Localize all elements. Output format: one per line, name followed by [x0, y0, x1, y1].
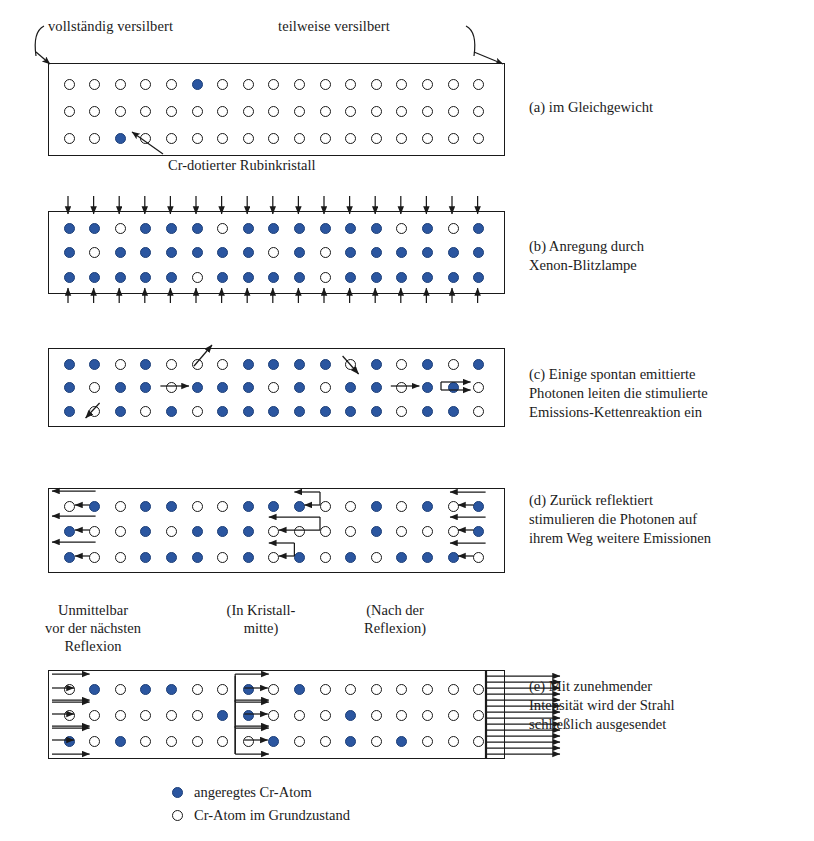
ground-atom [243, 79, 254, 90]
excited-atom [294, 247, 305, 258]
excited-atom [166, 501, 177, 512]
excited-atom [217, 710, 228, 721]
excited-atom [345, 272, 356, 283]
ground-atom [448, 106, 459, 117]
excited-atom [64, 247, 75, 258]
excited-atom [371, 272, 382, 283]
ground-atom [422, 133, 433, 144]
excited-atom [243, 406, 254, 417]
excited-atom [448, 382, 459, 393]
excited-atom [371, 406, 382, 417]
ground-atom [217, 552, 228, 563]
excited-atom [371, 223, 382, 234]
ground-atom [422, 526, 433, 537]
ground-atom [345, 133, 356, 144]
excited-atom [115, 382, 126, 393]
ground-atom [140, 736, 151, 747]
ground-atom [473, 133, 484, 144]
ground-atom [448, 526, 459, 537]
ground-atom [217, 106, 228, 117]
d-label-after-reflection: (Nach der Reflexion) [330, 601, 460, 637]
ground-atom [320, 501, 331, 512]
caption-c: (c) Einige spontan emittierte Photonen l… [529, 365, 809, 422]
excited-atom [64, 526, 75, 537]
excited-atom [422, 501, 433, 512]
ground-atom [192, 106, 203, 117]
excited-atom [294, 406, 305, 417]
excited-atom [140, 359, 151, 370]
excited-atom [422, 223, 433, 234]
ground-atom [371, 552, 382, 563]
excited-atom [243, 552, 254, 563]
excited-atom [192, 382, 203, 393]
ground-atom [115, 223, 126, 234]
mirror-label-partially-silvered: teilweise versilbert [278, 18, 390, 35]
excited-atom [64, 552, 75, 563]
ground-atom [422, 710, 433, 721]
excited-atom [473, 272, 484, 283]
excited-atom [243, 710, 254, 721]
d-label-crystal-middle: (In Kristall- mitte) [196, 601, 326, 637]
excited-atom [64, 223, 75, 234]
excited-atom [140, 223, 151, 234]
d-label-before-reflection: Unmittelbar vor der nächsten Reflexion [18, 601, 168, 655]
ground-atom [268, 526, 279, 537]
ground-atom [320, 247, 331, 258]
excited-atom [140, 501, 151, 512]
ground-atom [166, 526, 177, 537]
ground-atom [192, 133, 203, 144]
ground-atom [345, 79, 356, 90]
excited-atom [345, 552, 356, 563]
caption-e: (e) Mit zunehmender Intensität wird der … [529, 677, 809, 734]
ground-atom [166, 133, 177, 144]
excited-atom [140, 382, 151, 393]
ground-atom [89, 247, 100, 258]
ground-atom [396, 526, 407, 537]
ground-atom [140, 406, 151, 417]
excited-atom [294, 501, 305, 512]
excited-atom [192, 526, 203, 537]
excited-atom [89, 359, 100, 370]
ground-atom [448, 710, 459, 721]
excited-atom [345, 247, 356, 258]
excited-atom [192, 223, 203, 234]
ground-atom [217, 684, 228, 695]
excited-atom [396, 247, 407, 258]
ground-atom [268, 684, 279, 695]
excited-atom [243, 526, 254, 537]
ground-atom [140, 79, 151, 90]
ground-atom [473, 382, 484, 393]
ground-atom [89, 406, 100, 417]
ground-atom [89, 710, 100, 721]
excited-atom [345, 736, 356, 747]
excited-atom [396, 736, 407, 747]
ground-atom [140, 710, 151, 721]
ground-atom [268, 133, 279, 144]
excited-atom [89, 684, 100, 695]
ground-atom [192, 710, 203, 721]
excited-atom [243, 247, 254, 258]
ground-atom [294, 710, 305, 721]
excited-atom [473, 223, 484, 234]
ground-atom [192, 736, 203, 747]
excited-atom [473, 359, 484, 370]
excited-atom [422, 382, 433, 393]
ground-atom [115, 79, 126, 90]
ground-atom [140, 106, 151, 117]
ground-atom [115, 106, 126, 117]
ground-atom [320, 710, 331, 721]
ground-atom [268, 382, 279, 393]
ground-atom [448, 223, 459, 234]
excited-atom [473, 526, 484, 537]
excited-atom [448, 552, 459, 563]
ground-atom [89, 106, 100, 117]
ground-atom [243, 106, 254, 117]
ground-atom [448, 79, 459, 90]
excited-atom [294, 223, 305, 234]
ground-atom [396, 79, 407, 90]
ground-atom [345, 359, 356, 370]
excited-atom [140, 552, 151, 563]
ground-atom [115, 710, 126, 721]
legend-label-ground: Cr-Atom im Grundzustand [194, 804, 350, 827]
excited-atom [115, 272, 126, 283]
